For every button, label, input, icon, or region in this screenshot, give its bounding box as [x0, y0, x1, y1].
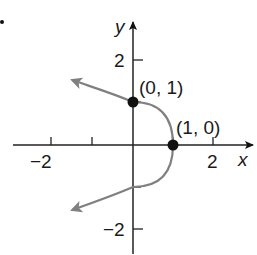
- point-label-1-0: (1, 0): [176, 117, 220, 138]
- parabola-curve: [133, 102, 173, 145]
- point-1-0: [168, 140, 179, 151]
- parabola-lower: [133, 145, 173, 187]
- x-tick-label-neg2: −2: [30, 151, 52, 172]
- y-axis-label: y: [113, 16, 126, 37]
- graph: y x 2 −2 −2 2 (0, 1) (1, 0): [0, 0, 257, 255]
- x-tick-label-2: 2: [207, 151, 218, 172]
- y-tick-label-2: 2: [114, 50, 125, 71]
- point-0-1: [128, 97, 139, 108]
- point-label-0-1: (0, 1): [139, 77, 183, 98]
- parabola-upper-branch: [72, 80, 133, 102]
- parabola-lower-branch: [72, 187, 133, 210]
- y-tick-label-neg2: −2: [103, 219, 125, 240]
- x-ticks: [51, 137, 213, 145]
- x-axis-label: x: [237, 149, 249, 170]
